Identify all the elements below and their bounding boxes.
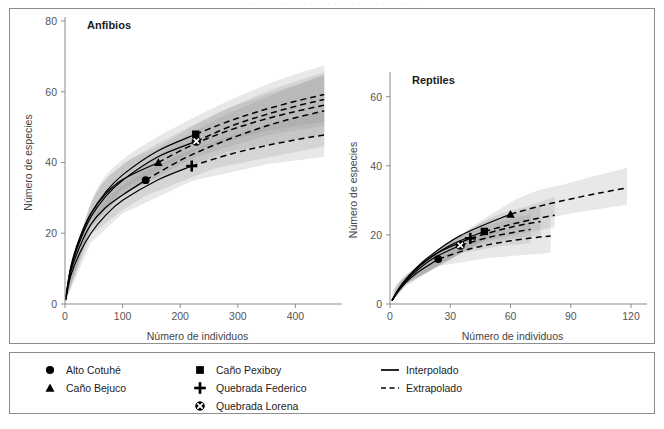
legend-label: Alto Cotuhé	[66, 364, 121, 376]
legend-marker-xcircle	[196, 402, 205, 411]
data-point-marker	[192, 137, 200, 145]
y-tick-label: 80	[45, 15, 57, 27]
legend-marker-triangle	[45, 383, 54, 391]
y-tick-label: 60	[45, 86, 57, 98]
legend-marker-circle	[46, 366, 54, 374]
legend-item: Quebrada Federico	[194, 382, 306, 394]
x-tick-label: 400	[287, 310, 305, 322]
legend-item: Quebrada Lorena	[196, 400, 299, 412]
legend-item: Extrapolado	[381, 382, 462, 394]
x-tick-label: 200	[171, 310, 189, 322]
y-axis-title: Número de especies	[22, 114, 34, 210]
legend-label: Caño Pexiboy	[216, 364, 282, 376]
x-tick-label: 0	[387, 310, 393, 322]
legend-item: Caño Bejuco	[45, 382, 126, 394]
x-tick-label: 100	[114, 310, 132, 322]
x-tick-label: 300	[229, 310, 247, 322]
y-tick-label: 0	[51, 298, 57, 310]
legend-label: Quebrada Lorena	[216, 400, 298, 412]
data-point-marker	[481, 228, 488, 235]
y-tick-label: 20	[370, 229, 382, 241]
legend-item: Alto Cotuhé	[46, 364, 121, 376]
data-point-marker	[434, 255, 442, 263]
charts-panel: 0100200300400020406080Número de individu…	[9, 8, 655, 344]
y-tick-label: 60	[370, 91, 382, 103]
x-tick-label: 30	[444, 310, 456, 322]
charts-svg: 0100200300400020406080Número de individu…	[10, 9, 654, 343]
data-point-marker	[456, 241, 464, 249]
legend-item: Interpolado	[381, 364, 459, 376]
legend-marker-plus	[194, 382, 206, 394]
panel-title: Anfibios	[87, 19, 131, 31]
confidence-bands	[392, 168, 627, 301]
legend-label: Quebrada Federico	[216, 382, 307, 394]
y-axis-title: Número de especies	[347, 142, 359, 238]
y-tick-label: 0	[376, 298, 382, 310]
data-point-marker	[142, 176, 150, 184]
legend-svg: Alto CotuhéCaño BejucoCaño PexiboyQuebra…	[10, 353, 654, 413]
x-tick-label: 0	[62, 310, 68, 322]
x-tick-label: 60	[505, 310, 517, 322]
legend-marker-square	[196, 366, 204, 374]
x-axis-title: Número de individuos	[147, 330, 249, 342]
y-tick-label: 20	[45, 227, 57, 239]
figure-root: · · · · · · · · · · · · · · · · · · · · …	[0, 0, 664, 429]
x-axis-title: Número de individuos	[462, 330, 564, 342]
legend-label: Extrapolado	[406, 382, 462, 394]
x-tick-label: 90	[565, 310, 577, 322]
legend-panel: Alto CotuhéCaño BejucoCaño PexiboyQuebra…	[9, 352, 655, 414]
legend-label: Interpolado	[406, 364, 459, 376]
y-tick-label: 40	[370, 160, 382, 172]
confidence-band	[66, 72, 325, 300]
panel-title: Reptiles	[412, 74, 455, 86]
legend-item: Caño Pexiboy	[196, 364, 282, 376]
legend-label: Caño Bejuco	[66, 382, 126, 394]
y-tick-label: 40	[45, 156, 57, 168]
cropped-caption-text: · · · · · · · · · · · · · · · · · · · · …	[0, 0, 664, 7]
x-tick-label: 120	[622, 310, 640, 322]
confidence-bands	[66, 65, 325, 301]
